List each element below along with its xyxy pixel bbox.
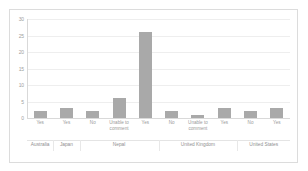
y-axis-tick-label: 5 xyxy=(21,99,24,105)
y-axis-tick-label: 15 xyxy=(19,66,24,72)
bar xyxy=(139,32,152,118)
bar xyxy=(165,111,178,118)
y-axis-tick-label: 25 xyxy=(19,33,24,39)
bar xyxy=(86,111,99,118)
y-axis-tick-label: 0 xyxy=(21,115,24,121)
x-axis-category-labels: YesYesNoUnable to commentYesNoUnable to … xyxy=(27,120,290,140)
x-axis-group-labels: AustraliaJapanNepalUnited KingdomUnited … xyxy=(27,142,290,154)
group-divider-tick xyxy=(159,140,160,151)
y-axis-tick-label: 30 xyxy=(19,16,24,22)
bar xyxy=(34,111,47,118)
gridline xyxy=(27,118,290,119)
bar xyxy=(218,108,231,118)
x-axis-group-label: Japan xyxy=(36,142,96,148)
bar-chart: 051015202530 YesYesNoUnable to commentYe… xyxy=(9,9,298,163)
bar xyxy=(244,111,257,118)
y-axis-tick-label: 20 xyxy=(19,49,24,55)
bar xyxy=(270,108,283,118)
x-axis-group-label: Nepal xyxy=(89,142,149,148)
x-axis-group-label: United Kingdom xyxy=(168,142,228,148)
y-axis-tick-labels: 051015202530 xyxy=(10,19,24,118)
group-divider-tick xyxy=(53,140,54,151)
bar xyxy=(191,115,204,118)
group-divider-tick xyxy=(237,140,238,151)
x-axis-category-label: Yes xyxy=(262,120,292,126)
x-axis-group-label: United States xyxy=(234,142,294,148)
bar xyxy=(113,98,126,118)
group-divider-tick xyxy=(80,140,81,151)
y-axis-tick-label: 10 xyxy=(19,82,24,88)
bar xyxy=(60,108,73,118)
plot-area xyxy=(27,19,290,118)
